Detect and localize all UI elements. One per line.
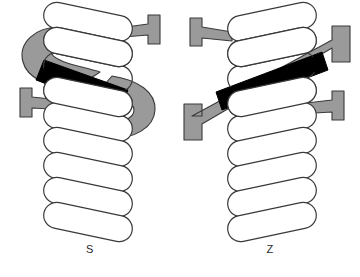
panel-s-twist: S: [0, 0, 180, 277]
z-twist-diagram: [180, 0, 360, 277]
panel-z-twist: Z: [180, 0, 360, 277]
panel-label-z: Z: [180, 243, 360, 255]
s-twist-diagram: [0, 0, 180, 277]
figure-root: S: [0, 0, 360, 277]
z-top-left-arrow: [190, 18, 232, 46]
panel-label-s: S: [0, 243, 180, 255]
